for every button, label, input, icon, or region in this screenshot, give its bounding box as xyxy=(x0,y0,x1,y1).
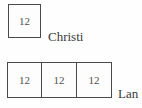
lan-cell-1: 12 xyxy=(7,62,42,98)
christi-cell-1: 12 xyxy=(8,4,41,38)
lan-array: 12 12 12 xyxy=(7,62,112,98)
christi-label: Christi xyxy=(48,30,83,43)
lan-label: Lan xyxy=(118,87,138,100)
lan-cell-2: 12 xyxy=(42,62,77,98)
lan-cell-3: 12 xyxy=(77,62,112,98)
christi-array: 12 xyxy=(8,4,41,38)
textbook-figure: 12 Christi 12 12 12 Lan xyxy=(0,0,142,108)
